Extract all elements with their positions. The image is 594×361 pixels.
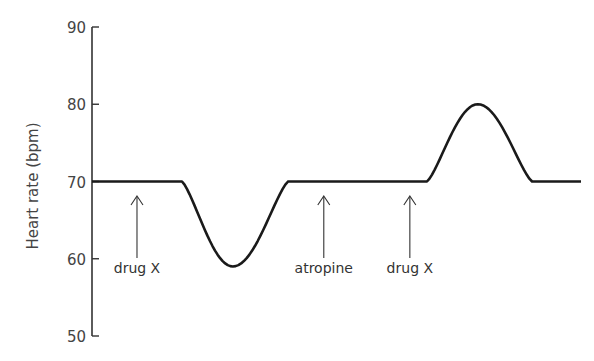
y-tick-label: 90 bbox=[67, 19, 86, 37]
y-axis-title: Heart rate (bpm) bbox=[24, 122, 42, 249]
event-label: drug X bbox=[387, 260, 434, 276]
y-tick-label: 80 bbox=[67, 96, 86, 114]
event-annotation: drug X bbox=[387, 196, 434, 276]
y-tick-label: 70 bbox=[67, 174, 86, 192]
heart-rate-chart: 5060708090 Heart rate (bpm) drug Xatropi… bbox=[0, 0, 594, 361]
y-tick-label: 50 bbox=[67, 328, 86, 346]
series-group bbox=[92, 104, 581, 266]
event-annotation: drug X bbox=[114, 196, 161, 276]
event-label: atropine bbox=[295, 260, 353, 276]
y-tick-label: 60 bbox=[67, 251, 86, 269]
event-label: drug X bbox=[114, 260, 161, 276]
heart-rate-line bbox=[92, 104, 581, 266]
event-annotation: atropine bbox=[295, 196, 353, 276]
